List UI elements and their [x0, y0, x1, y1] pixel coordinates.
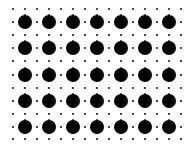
- small-dot: [108, 21, 110, 23]
- small-dot: [168, 8, 170, 10]
- small-dot: [60, 8, 62, 10]
- small-dot: [180, 138, 182, 140]
- small-dot: [144, 138, 146, 140]
- small-dot: [72, 87, 74, 89]
- small-dot: [36, 34, 38, 36]
- small-dot: [48, 138, 50, 140]
- small-dot: [96, 113, 98, 115]
- small-dot: [144, 87, 146, 89]
- small-dot: [144, 8, 146, 10]
- small-dot: [108, 113, 110, 115]
- small-dot: [60, 113, 62, 115]
- small-dot: [156, 8, 158, 10]
- big-dot: [138, 68, 152, 82]
- small-dot: [132, 47, 134, 49]
- small-dot: [132, 8, 134, 10]
- small-dot: [48, 34, 50, 36]
- small-dot: [36, 126, 38, 128]
- big-dot: [114, 15, 128, 29]
- small-dot: [12, 60, 14, 62]
- small-dot: [60, 126, 62, 128]
- small-dot: [12, 100, 14, 102]
- small-dot: [108, 34, 110, 36]
- small-dot: [108, 100, 110, 102]
- big-dot: [162, 68, 176, 82]
- small-dot: [36, 21, 38, 23]
- small-dot: [84, 74, 86, 76]
- big-dot: [90, 120, 104, 134]
- small-dot: [72, 138, 74, 140]
- big-dot: [18, 120, 32, 134]
- small-dot: [96, 60, 98, 62]
- small-dot: [12, 8, 14, 10]
- small-dot: [24, 138, 26, 140]
- small-dot: [84, 21, 86, 23]
- small-dot: [36, 87, 38, 89]
- small-dot: [84, 138, 86, 140]
- big-dot: [114, 41, 128, 55]
- small-dot: [120, 8, 122, 10]
- small-dot: [12, 34, 14, 36]
- small-dot: [72, 60, 74, 62]
- small-dot: [132, 138, 134, 140]
- dot-grid-pattern: [0, 0, 192, 150]
- big-dot: [162, 120, 176, 134]
- small-dot: [96, 138, 98, 140]
- small-dot: [12, 21, 14, 23]
- small-dot: [108, 87, 110, 89]
- big-dot: [114, 94, 128, 108]
- small-dot: [120, 87, 122, 89]
- small-dot: [132, 113, 134, 115]
- small-dot: [48, 8, 50, 10]
- small-dot: [24, 34, 26, 36]
- big-dot: [66, 94, 80, 108]
- small-dot: [84, 8, 86, 10]
- small-dot: [60, 47, 62, 49]
- small-dot: [12, 113, 14, 115]
- small-dot: [156, 87, 158, 89]
- small-dot: [168, 138, 170, 140]
- big-dot: [66, 120, 80, 134]
- small-dot: [12, 87, 14, 89]
- big-dot: [42, 94, 56, 108]
- small-dot: [60, 34, 62, 36]
- small-dot: [24, 60, 26, 62]
- small-dot: [120, 34, 122, 36]
- small-dot: [180, 113, 182, 115]
- small-dot: [144, 60, 146, 62]
- small-dot: [120, 60, 122, 62]
- big-dot: [42, 15, 56, 29]
- big-dot: [42, 41, 56, 55]
- small-dot: [168, 87, 170, 89]
- big-dot: [66, 41, 80, 55]
- small-dot: [72, 113, 74, 115]
- small-dot: [60, 87, 62, 89]
- small-dot: [24, 8, 26, 10]
- small-dot: [12, 126, 14, 128]
- small-dot: [60, 60, 62, 62]
- small-dot: [156, 126, 158, 128]
- small-dot: [156, 47, 158, 49]
- small-dot: [108, 126, 110, 128]
- small-dot: [132, 34, 134, 36]
- small-dot: [36, 47, 38, 49]
- small-dot: [84, 47, 86, 49]
- big-dot: [90, 41, 104, 55]
- small-dot: [36, 100, 38, 102]
- small-dot: [36, 138, 38, 140]
- small-dot: [144, 34, 146, 36]
- small-dot: [132, 126, 134, 128]
- small-dot: [108, 74, 110, 76]
- small-dot: [132, 100, 134, 102]
- small-dot: [48, 113, 50, 115]
- small-dot: [12, 138, 14, 140]
- small-dot: [132, 21, 134, 23]
- small-dot: [36, 74, 38, 76]
- small-dot: [108, 8, 110, 10]
- small-dot: [180, 34, 182, 36]
- small-dot: [180, 21, 182, 23]
- small-dot: [144, 113, 146, 115]
- big-dot: [138, 94, 152, 108]
- small-dot: [24, 113, 26, 115]
- small-dot: [12, 47, 14, 49]
